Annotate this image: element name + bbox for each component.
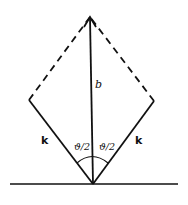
label-angle-right: ϑ/2 [99,141,115,152]
label-angle-left: ϑ/2 [74,141,90,152]
label-k-left: k [41,134,49,147]
label-b: b [95,78,102,91]
label-k-right: k [135,134,143,147]
b-vector [90,18,93,184]
left-dashed-side [29,17,90,100]
vector-diagram: b k k ϑ/2 ϑ/2 [0,0,188,205]
